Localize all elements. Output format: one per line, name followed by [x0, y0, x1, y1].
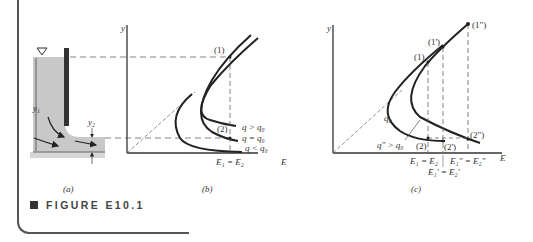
figure-caption: FIGURE E10.1 [30, 199, 145, 211]
energy-label-c2: E₁'' = E₂'' [449, 156, 487, 166]
point-1prime-label: (1') [428, 37, 440, 47]
curve-label-q-greater: q > q₀ [242, 122, 265, 132]
panel-b-specific-energy: y E (1) (2) q > q₀ q = q₀ q < q₀ E₁ = E₂… [120, 23, 287, 194]
panel-a-label: (a) [63, 184, 74, 194]
point-1-label: (1) [214, 45, 225, 55]
point-2dprime-label: (2") [470, 130, 484, 140]
panel-a-sluice-gate: y1 y2 (a) [30, 48, 105, 194]
panel-c-label: (c) [411, 184, 421, 194]
curve-label-q-equal: q = q₀ [242, 133, 265, 143]
panel-c-specific-energy: y E (1) (1') (1") (2) (2') (2") q₀ q" > … [326, 20, 506, 194]
energy-label-c3: E₁' = E₂' [427, 167, 461, 177]
y-axis-label: y [120, 23, 125, 33]
energy-label-c1: E₁ = E₂ [409, 156, 438, 166]
x-axis-label: E [280, 157, 287, 167]
curve-label-q-less: q < q₀ [245, 143, 268, 153]
energy-label: E₁ = E₂ [215, 157, 244, 167]
point-2-label-c: (2) [416, 141, 427, 151]
panel-b-label: (b) [202, 184, 213, 194]
curve-label-qdd: q" > q₀ [377, 140, 403, 150]
point-2-label: (2) [217, 124, 228, 134]
point-1-label-c: (1) [414, 52, 425, 62]
y2-label: y2 [87, 117, 95, 128]
sluice-gate [64, 48, 69, 126]
free-surface-icon [37, 48, 47, 55]
x-axis-label-c: E [499, 153, 506, 163]
point-1dprime-label: (1") [472, 20, 486, 30]
point-2prime-label: (2') [444, 142, 456, 152]
caption-square-icon [30, 201, 38, 209]
y-axis-label-c: y [326, 23, 331, 33]
curve-label-q0: q₀ [384, 113, 392, 123]
